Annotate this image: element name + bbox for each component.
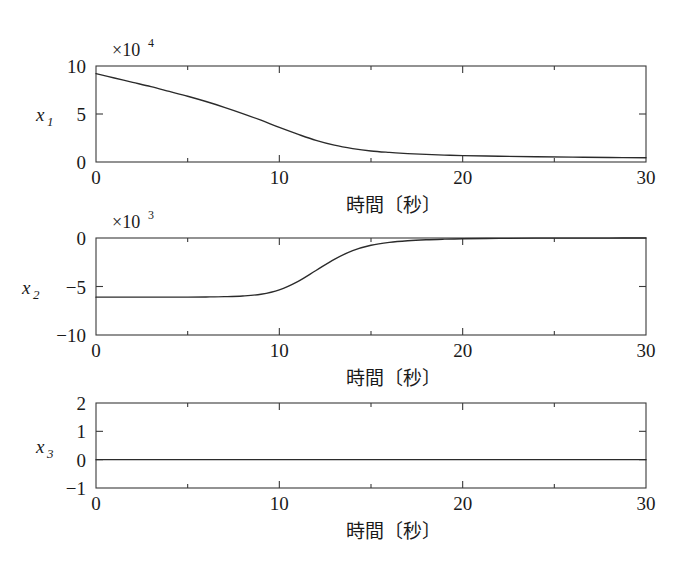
data-series-line bbox=[96, 74, 646, 158]
x-tick-label: 20 bbox=[453, 167, 472, 188]
y-axis-multiplier-exponent: 4 bbox=[148, 36, 154, 50]
y-axis-label-subscript: 3 bbox=[46, 446, 54, 461]
x-tick-label: 10 bbox=[270, 167, 289, 188]
y-tick-label: −10 bbox=[56, 325, 86, 346]
subplot-x2: 0102030−10−50×103x2時間〔秒〕 bbox=[21, 208, 656, 389]
y-axis-label: x bbox=[35, 436, 45, 457]
x-tick-label: 0 bbox=[91, 167, 101, 188]
y-tick-label: −1 bbox=[66, 478, 86, 499]
x-tick-label: 30 bbox=[637, 167, 656, 188]
y-axis-multiplier-exponent: 3 bbox=[148, 208, 154, 222]
x-axis-title: 時間〔秒〕 bbox=[346, 367, 441, 389]
y-axis-multiplier: ×10 bbox=[112, 212, 140, 232]
chart-svg: 01020300510×104x1時間〔秒〕0102030−10−50×103x… bbox=[0, 0, 684, 564]
x-tick-label: 10 bbox=[270, 340, 289, 361]
y-tick-label: 0 bbox=[77, 450, 87, 471]
x-tick-label: 0 bbox=[91, 493, 101, 514]
y-axis-label-subscript: 1 bbox=[47, 114, 54, 129]
y-axis-multiplier: ×10 bbox=[112, 40, 140, 60]
axes-frame bbox=[96, 403, 646, 488]
y-tick-label: −5 bbox=[66, 277, 86, 298]
x-tick-label: 20 bbox=[453, 340, 472, 361]
y-tick-label: 10 bbox=[67, 56, 86, 77]
x-tick-label: 30 bbox=[637, 493, 656, 514]
y-tick-label: 0 bbox=[77, 152, 87, 173]
x-axis-title: 時間〔秒〕 bbox=[346, 520, 441, 542]
data-series-line bbox=[96, 238, 646, 297]
y-axis-label-subscript: 2 bbox=[33, 287, 40, 302]
axes-frame bbox=[96, 66, 646, 162]
y-tick-label: 2 bbox=[77, 393, 87, 414]
x-tick-label: 30 bbox=[637, 340, 656, 361]
figure-canvas: 01020300510×104x1時間〔秒〕0102030−10−50×103x… bbox=[0, 0, 684, 564]
y-axis-label: x bbox=[21, 277, 31, 298]
y-axis-label: x bbox=[35, 104, 45, 125]
y-tick-label: 1 bbox=[77, 421, 87, 442]
x-tick-label: 0 bbox=[91, 340, 101, 361]
subplot-x3: 0102030−1012x3時間〔秒〕 bbox=[35, 393, 656, 542]
x-tick-label: 20 bbox=[453, 493, 472, 514]
y-tick-label: 5 bbox=[77, 104, 87, 125]
subplot-x1: 01020300510×104x1時間〔秒〕 bbox=[35, 36, 656, 216]
x-tick-label: 10 bbox=[270, 493, 289, 514]
x-axis-title: 時間〔秒〕 bbox=[346, 194, 441, 216]
axes-frame bbox=[96, 238, 646, 335]
y-tick-label: 0 bbox=[77, 228, 87, 249]
